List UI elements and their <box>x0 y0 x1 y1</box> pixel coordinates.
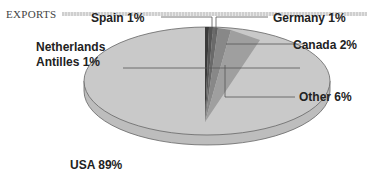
label-germany: Germany 1% <box>273 11 346 25</box>
label-spain: Spain 1% <box>91 11 144 25</box>
label-netherlands-line2: Antilles 1% <box>36 55 100 69</box>
label-other: Other 6% <box>299 90 352 104</box>
label-canada: Canada 2% <box>293 38 357 52</box>
label-usa: USA 89% <box>70 158 122 172</box>
label-netherlands-line1: Netherlands <box>36 40 105 54</box>
